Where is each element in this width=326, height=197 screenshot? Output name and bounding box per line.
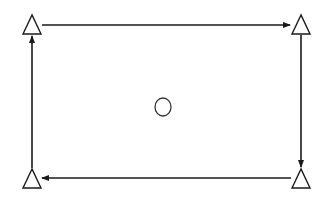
triangle-node-bottom-left xyxy=(23,169,41,188)
center-circle xyxy=(155,98,171,116)
cycle-diagram xyxy=(0,0,326,197)
triangle-node-bottom-right xyxy=(292,169,310,188)
triangle-node-top-right xyxy=(292,15,310,34)
triangle-node-top-left xyxy=(23,15,41,34)
